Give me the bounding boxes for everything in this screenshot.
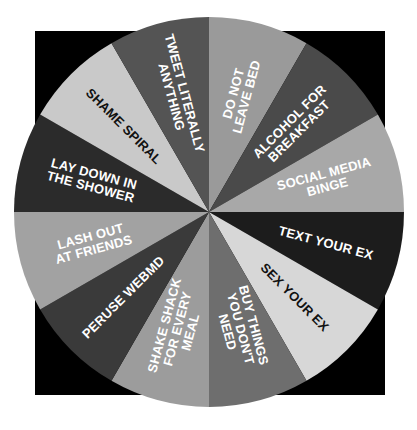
spinner-wheel-svg[interactable]: DO NOTLEAVE BEDALCOHOL FORBREAKFASTSOCIA… [0, 0, 417, 430]
wheel-graphic: DO NOTLEAVE BEDALCOHOL FORBREAKFASTSOCIA… [0, 0, 417, 430]
wheel-stage: DO NOTLEAVE BEDALCOHOL FORBREAKFASTSOCIA… [0, 0, 417, 430]
wheel-slices [14, 17, 404, 407]
